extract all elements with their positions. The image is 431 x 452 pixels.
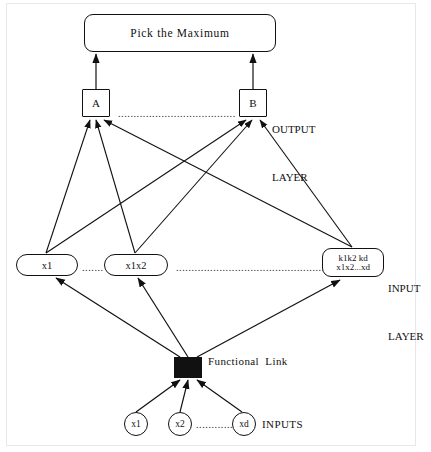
link-outputs-to-pick xyxy=(96,54,253,89)
input-layer-label-line1: INPUT xyxy=(388,281,424,297)
functional-link-label: Functional Link xyxy=(208,354,288,370)
output-layer-label: OUTPUT LAYER xyxy=(272,90,315,218)
input-layer-node-x1x2: x1x2 xyxy=(104,254,168,276)
output-node-b: B xyxy=(239,89,267,117)
input-circle-x1-label: x1 xyxy=(131,419,141,429)
input-circle-x1: x1 xyxy=(124,412,148,436)
input-circle-xd-label: xd xyxy=(239,419,249,429)
output-layer-label-line2: LAYER xyxy=(272,170,315,186)
pick-the-maximum-label: Pick the Maximum xyxy=(130,27,229,39)
input-layer-label: INPUT LAYER xyxy=(388,249,424,377)
input-layer-node-kd: k1k2 kd x1x2...xd xyxy=(322,248,384,277)
input-layer-ellipsis-long: ........................................… xyxy=(176,262,328,273)
input-circle-x2: x2 xyxy=(168,412,192,436)
input-circle-xd: xd xyxy=(232,412,256,436)
connection-lines xyxy=(0,0,431,452)
diagram-canvas: Pick the Maximum A B ...................… xyxy=(0,0,431,452)
inputs-label: INPUTS xyxy=(262,417,303,433)
functional-link-block xyxy=(174,357,202,378)
input-layer-node-kd-line2: x1x2...xd xyxy=(336,263,370,272)
input-layer-node-x1-label: x1 xyxy=(42,260,53,271)
output-node-b-label: B xyxy=(249,97,256,109)
output-node-a: A xyxy=(82,89,110,117)
output-node-a-label: A xyxy=(92,97,100,109)
input-circle-x2-label: x2 xyxy=(175,419,185,429)
link-inputs-to-flink xyxy=(136,380,242,412)
link-flink-to-inputlayer xyxy=(56,278,340,357)
input-layer-node-x1x2-label: x1x2 xyxy=(126,260,147,271)
output-layer-ellipsis: ...................................... xyxy=(118,108,236,119)
output-layer-label-line1: OUTPUT xyxy=(272,122,315,138)
input-layer-node-x1: x1 xyxy=(16,254,78,276)
pick-the-maximum-box: Pick the Maximum xyxy=(84,14,276,52)
input-layer-label-line2: LAYER xyxy=(388,329,424,345)
input-layer-ellipsis-short: ....... xyxy=(82,262,104,273)
